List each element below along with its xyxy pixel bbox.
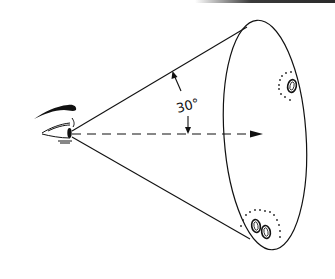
cone-upper-edge [72,27,247,131]
pupil [67,128,71,138]
cone-lower-edge [72,137,250,239]
eyebrow [34,105,76,119]
zero-shape-icon [251,219,262,233]
angle-arrowhead-lower-icon [185,127,191,134]
eye-icon [34,105,76,143]
zero-shape-icon [286,79,297,93]
arrowhead-icon [250,131,263,138]
zero-shape-icon [261,225,272,239]
vision-cone-diagram: 30° [0,0,335,279]
angle-arrowhead-upper-icon [172,71,178,79]
object-single [278,71,297,101]
lower-eyelid [42,134,72,143]
field-ellipse [216,17,314,252]
angle-label: 30° [175,95,201,115]
object-pair [240,209,281,239]
